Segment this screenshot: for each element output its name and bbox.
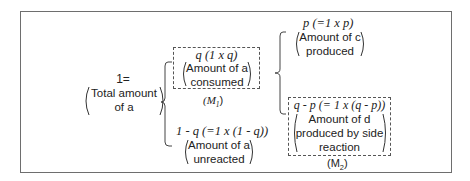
product-c-description-line1: Amount of c — [298, 30, 362, 44]
product-c-formula: p (=1 x p) — [303, 16, 353, 31]
root-description-line2: of a — [88, 100, 160, 114]
side-product-d-description: Amount of d produced by side reaction — [295, 112, 384, 154]
product-c-description-line2: produced — [298, 44, 362, 58]
root-description: Total amount of a — [82, 85, 166, 117]
root-equation: 1= — [108, 72, 138, 86]
side-product-d-description-line3: reaction — [295, 140, 384, 154]
consumed-description: Amount of a consumed — [185, 61, 249, 89]
unreacted-description-line1: Amount of a — [187, 138, 251, 152]
consumed-right-paren-icon — [247, 61, 254, 87]
side-product-d-description-line1: Amount of d — [295, 112, 384, 126]
side-product-right-paren-icon — [382, 113, 389, 153]
root-description-line1: Total amount — [88, 86, 160, 100]
product-c-description: Amount of c produced — [298, 30, 362, 58]
side-product-d-description-line2: produced by side — [295, 126, 384, 140]
left-curly-brace-icon — [160, 62, 174, 148]
consumed-description-line2: consumed — [185, 75, 249, 89]
unreacted-formula: 1 - q (=1 x (1 - q)) — [176, 124, 268, 139]
m2-label: (M2) — [327, 157, 348, 172]
unreacted-description-line2: unreacted — [187, 152, 251, 166]
unreacted-right-paren-icon — [249, 139, 256, 165]
m1-label: (M1) — [203, 94, 223, 109]
product-c-right-paren-icon — [360, 31, 367, 57]
side-product-d-formula: q - p (= 1 x (q - p)) — [288, 98, 391, 113]
unreacted-description: Amount of a unreacted — [187, 138, 251, 166]
consumed-description-line1: Amount of a — [185, 61, 249, 75]
right-curly-brace-icon — [274, 32, 288, 116]
